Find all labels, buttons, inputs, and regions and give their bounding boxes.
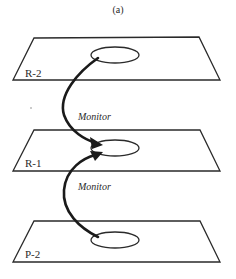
diagram-title: (a) <box>112 4 123 16</box>
arrowhead-down-icon <box>90 137 103 149</box>
plane-r2: R-2 <box>13 37 220 80</box>
plane-p2-outline <box>13 221 220 262</box>
edge-label-top: Monitor <box>77 111 111 122</box>
plane-r2-outline <box>13 37 220 80</box>
stray-dot <box>30 107 32 109</box>
plane-r1-outline <box>13 130 220 171</box>
plane-r2-region <box>91 47 139 63</box>
monitor-arrow-top <box>63 58 103 149</box>
plane-r1: R-1 <box>13 130 220 171</box>
plane-r1-label: R-1 <box>25 157 42 169</box>
arrow-curve-bottom <box>64 155 98 237</box>
plane-p2-label: P-2 <box>25 248 40 260</box>
plane-p2-region <box>91 232 139 248</box>
monitor-arrow-bottom <box>64 151 103 237</box>
plane-p2: P-2 <box>13 221 220 262</box>
diagram-canvas: (a) R-2 R-1 P-2 Monitor Monitor <box>0 0 236 279</box>
plane-r2-label: R-2 <box>25 67 42 79</box>
edge-label-bottom: Monitor <box>77 181 111 192</box>
